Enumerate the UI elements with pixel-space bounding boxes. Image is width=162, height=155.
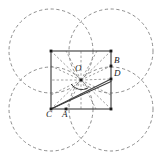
corner-marker-top-left [50, 50, 53, 53]
point-marker-D [110, 78, 113, 81]
geometry-figure: O B D C A [0, 0, 162, 155]
point-marker-B [110, 65, 113, 68]
label-point-B: B [114, 56, 120, 65]
ray-O-6 [81, 66, 111, 80]
point-marker-O [80, 79, 83, 82]
ray-O-13 [51, 80, 81, 109]
corner-marker-top-right [110, 50, 113, 53]
ray-O-12 [66, 80, 81, 109]
ray-O-5 [81, 51, 111, 80]
ray-O-7 [81, 79, 111, 80]
label-point-C: C [46, 110, 52, 119]
label-point-O: O [75, 64, 82, 73]
point-markers-group [50, 50, 113, 111]
figure-canvas [0, 0, 162, 155]
solid-segments-group [51, 79, 111, 109]
corner-marker-bottom-right [110, 108, 113, 111]
ray-O-14 [51, 80, 81, 95]
label-point-D: D [114, 69, 121, 78]
ray-O-4 [81, 51, 97, 80]
ray-O-9 [81, 80, 111, 109]
label-point-A: A [62, 110, 68, 119]
